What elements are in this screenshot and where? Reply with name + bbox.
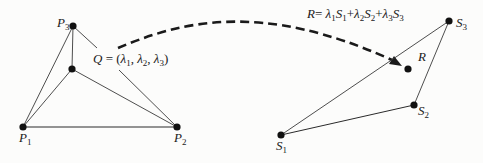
vertex-p3 xyxy=(69,22,76,29)
vertex-s2 xyxy=(410,101,417,108)
formula-eq: = xyxy=(315,6,326,21)
left-triangle: P3 P1 P2 Q = (λ1, λ2, λ3) xyxy=(18,15,186,147)
label-p2-name: P xyxy=(173,130,182,145)
label-p1-sub: 1 xyxy=(27,137,32,147)
label-p3-name: P xyxy=(56,15,65,30)
q-close: ) xyxy=(164,51,168,66)
formula-plus-2: + xyxy=(375,6,382,21)
edge-s2-s1 xyxy=(281,105,414,135)
label-p3: P3 xyxy=(56,15,70,32)
edge-p3-to-label xyxy=(73,26,97,48)
formula-plus-1: + xyxy=(347,6,354,21)
edge-p3-q xyxy=(72,26,73,69)
label-p3-sub: 3 xyxy=(65,22,70,32)
edge-label-to-p2 xyxy=(119,70,177,127)
label-p2: P2 xyxy=(173,130,186,147)
label-s3: S3 xyxy=(456,15,468,32)
label-p2-sub: 2 xyxy=(182,137,187,147)
label-q-coordinates: Q = (λ1, λ2, λ3) xyxy=(93,51,168,68)
interior-point-q xyxy=(68,65,75,72)
interior-point-r xyxy=(404,65,411,72)
label-s2: S2 xyxy=(418,103,429,120)
q-eq: = ( xyxy=(102,51,120,66)
barycentric-mapping-diagram: P3 P1 P2 Q = (λ1, λ2, λ3) R= λ1S1+λ2S2+λ… xyxy=(0,0,483,163)
label-p1: P1 xyxy=(18,130,31,147)
label-s1-sub: 1 xyxy=(283,145,288,155)
label-s3-sub: 3 xyxy=(463,22,468,32)
label-s1: S1 xyxy=(276,138,287,155)
label-s2-sub: 2 xyxy=(425,110,430,120)
label-p1-name: P xyxy=(18,130,27,145)
formula-ssub-3: 3 xyxy=(399,13,404,23)
formula-lhs: R xyxy=(306,6,315,21)
label-r: R xyxy=(417,49,426,64)
right-triangle: S3 S2 S1 R xyxy=(276,15,468,155)
edge-q-p2 xyxy=(72,69,177,127)
vertex-s3 xyxy=(445,17,452,24)
formula-r: R= λ1S1+λ2S2+λ3S3 xyxy=(306,6,404,23)
